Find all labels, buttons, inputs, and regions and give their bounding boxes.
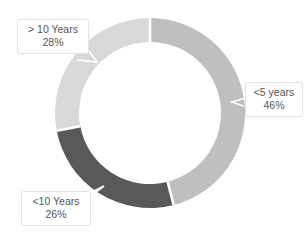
data-label-category: > 10 Years	[23, 23, 83, 36]
data-label-under-10-years[interactable]: <10 Years 26%	[21, 191, 91, 226]
donut-chart: > 10 Years 28% <5 years 46% <10 Years 26…	[0, 0, 308, 236]
data-label-under-5-years[interactable]: <5 years 46%	[245, 82, 303, 117]
data-label-category: <5 years	[251, 86, 297, 99]
data-label-percent: 26%	[27, 208, 85, 221]
data-label-over-10-years[interactable]: > 10 Years 28%	[17, 19, 89, 54]
data-label-percent: 46%	[251, 99, 297, 112]
pie-slice-under-5-years[interactable]	[150, 18, 245, 205]
data-label-percent: 28%	[23, 36, 83, 49]
data-label-category: <10 Years	[27, 195, 85, 208]
